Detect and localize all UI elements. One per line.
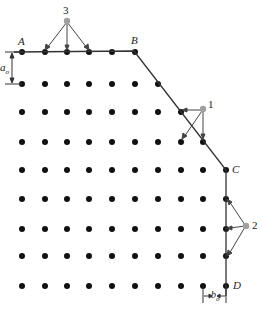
lattice-dot bbox=[132, 81, 138, 87]
lattice-dot bbox=[109, 167, 115, 173]
lattice-dot bbox=[155, 139, 161, 145]
lattice-dot bbox=[42, 196, 48, 202]
lattice-dot bbox=[64, 139, 70, 145]
lattice-dot bbox=[42, 167, 48, 173]
point-2-arrows bbox=[227, 199, 249, 256]
label-point-3: 3 bbox=[63, 5, 69, 16]
lattice-dot bbox=[178, 167, 184, 173]
lattice-dot bbox=[200, 226, 206, 232]
lattice-dot bbox=[132, 196, 138, 202]
lattice-dot bbox=[109, 49, 115, 55]
lattice-dot bbox=[42, 81, 48, 87]
lattice-dot bbox=[64, 283, 70, 289]
label-a-o: ao bbox=[0, 62, 9, 76]
lattice-dot bbox=[42, 253, 48, 259]
lattice-dot bbox=[155, 226, 161, 232]
point-3-arrows bbox=[45, 18, 89, 50]
lattice-dot bbox=[109, 196, 115, 202]
lattice-dot bbox=[42, 226, 48, 232]
lattice-dot bbox=[86, 226, 92, 232]
lattice-dot bbox=[178, 226, 184, 232]
lattice-dot bbox=[19, 253, 25, 259]
lattice-dot bbox=[132, 167, 138, 173]
lattice-dot bbox=[42, 109, 48, 115]
lattice-dot bbox=[19, 283, 25, 289]
label-a: A bbox=[18, 36, 25, 47]
lattice-dot bbox=[64, 81, 70, 87]
lattice-dot bbox=[132, 139, 138, 145]
lattice-dot bbox=[42, 139, 48, 145]
lattice-dot bbox=[109, 226, 115, 232]
lattice-dot bbox=[19, 196, 25, 202]
label-b-o: bo bbox=[211, 290, 220, 303]
lattice-dot bbox=[200, 196, 206, 202]
lattice-dot bbox=[109, 109, 115, 115]
lattice-dot bbox=[178, 139, 184, 145]
lattice-dot bbox=[86, 253, 92, 259]
lattice-dot bbox=[155, 167, 161, 173]
lattice-dot bbox=[64, 167, 70, 173]
lattice-dot bbox=[109, 139, 115, 145]
lattice-dot bbox=[86, 167, 92, 173]
lattice-dot bbox=[178, 283, 184, 289]
lattice-dot bbox=[19, 226, 25, 232]
boundary-line bbox=[14, 51, 226, 296]
lattice-diagram bbox=[0, 0, 262, 309]
lattice-dot bbox=[86, 139, 92, 145]
label-b: B bbox=[131, 35, 138, 46]
lattice-dot bbox=[19, 167, 25, 173]
lattice-dot bbox=[155, 109, 161, 115]
lattice-dot bbox=[64, 226, 70, 232]
lattice-dot bbox=[132, 109, 138, 115]
lattice-dot bbox=[86, 81, 92, 87]
lattice-dot bbox=[42, 283, 48, 289]
lattice-dot bbox=[86, 283, 92, 289]
lattice-dot bbox=[132, 283, 138, 289]
label-d: D bbox=[233, 280, 241, 291]
lattice-dot bbox=[109, 253, 115, 259]
lattice-dot bbox=[132, 226, 138, 232]
lattice-dot bbox=[19, 109, 25, 115]
lattice-dot bbox=[155, 253, 161, 259]
point-1-arrows bbox=[182, 106, 206, 139]
lattice-dot bbox=[109, 283, 115, 289]
lattice-dot bbox=[64, 109, 70, 115]
lattice-dot bbox=[178, 196, 184, 202]
lattice-dot bbox=[19, 139, 25, 145]
lattice-dot bbox=[64, 253, 70, 259]
lattice-dot bbox=[86, 196, 92, 202]
lattice-dot bbox=[200, 253, 206, 259]
lattice-dot bbox=[178, 253, 184, 259]
label-point-1: 1 bbox=[208, 99, 214, 110]
lattice-dot bbox=[64, 196, 70, 202]
lattice-dot bbox=[132, 253, 138, 259]
label-point-2: 2 bbox=[252, 220, 258, 231]
lattice-dot bbox=[155, 283, 161, 289]
lattice-dot bbox=[155, 196, 161, 202]
lattice-dot bbox=[200, 167, 206, 173]
lattice-dots bbox=[19, 49, 229, 289]
lattice-dot bbox=[86, 109, 92, 115]
label-c: C bbox=[232, 164, 239, 175]
lattice-dot bbox=[109, 81, 115, 87]
